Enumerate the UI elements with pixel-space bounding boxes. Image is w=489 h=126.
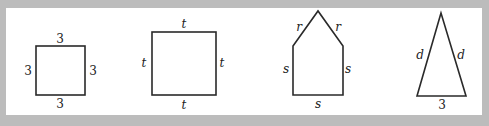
pentagon-figure: r r s s s <box>283 11 351 111</box>
square-3-right-label: 3 <box>89 64 97 78</box>
square-3-shape <box>36 46 85 95</box>
pentagon-roof-left-label: r <box>296 20 303 34</box>
square-3-top-label: 3 <box>56 32 64 46</box>
square-t-left-label: t <box>142 56 147 70</box>
square-t-shape <box>152 32 216 95</box>
pentagon-bottom-label: s <box>315 97 321 111</box>
square-3-bottom-label: 3 <box>56 97 64 111</box>
shapes-diagram: 3 3 3 3 t t t t r r s s s d d 3 <box>0 0 489 126</box>
triangle-right-label: d <box>457 48 465 62</box>
pentagon-roof-right-label: r <box>335 20 342 34</box>
pentagon-left-label: s <box>283 62 289 76</box>
square-t-bottom-label: t <box>182 98 187 112</box>
triangle-bottom-label: 3 <box>438 98 446 112</box>
triangle-left-label: d <box>416 48 424 62</box>
square-3-figure: 3 3 3 3 <box>24 32 97 111</box>
square-t-figure: t t t t <box>142 17 225 112</box>
square-t-right-label: t <box>220 56 225 70</box>
square-3-left-label: 3 <box>24 64 32 78</box>
pentagon-right-label: s <box>345 62 351 76</box>
triangle-figure: d d 3 <box>416 13 466 112</box>
square-t-top-label: t <box>182 17 187 31</box>
